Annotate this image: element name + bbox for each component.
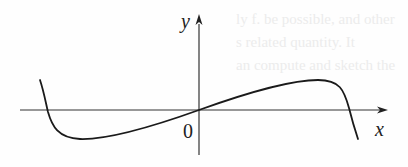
origin-label: 0 bbox=[183, 121, 193, 141]
y-axis-label: y bbox=[181, 11, 190, 31]
x-axis-label: x bbox=[375, 119, 384, 139]
plot-canvas bbox=[0, 0, 408, 167]
y-axis-arrow-icon bbox=[196, 14, 203, 25]
graph-figure: ly f. be possible, and other s related q… bbox=[0, 0, 408, 167]
